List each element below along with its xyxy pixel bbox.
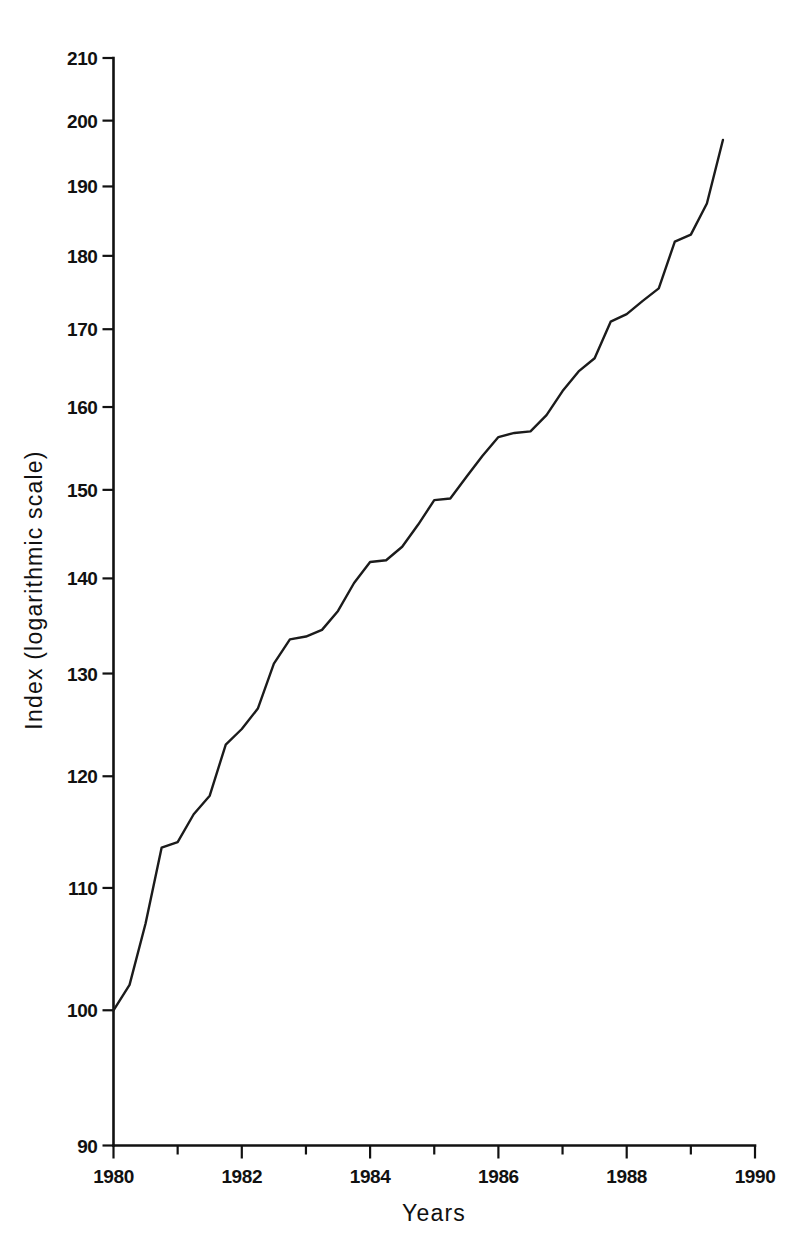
- y-tick-label: 190: [67, 176, 98, 197]
- y-axis-title: Index (logarithmic scale): [21, 450, 47, 729]
- chart-figure: 90100110120130140150160170180190200210 1…: [0, 0, 804, 1255]
- y-tick-label: 130: [67, 664, 98, 685]
- y-tick-label: 180: [67, 246, 98, 267]
- y-tick-label: 120: [67, 766, 98, 787]
- y-tick-label: 150: [67, 480, 98, 501]
- y-tick-label: 200: [67, 111, 98, 132]
- y-tick-label: 90: [77, 1136, 97, 1157]
- y-tick-label: 170: [67, 319, 98, 340]
- y-tick-label: 140: [67, 568, 98, 589]
- line-chart: 90100110120130140150160170180190200210 1…: [0, 0, 804, 1255]
- y-tick-label: 160: [67, 397, 98, 418]
- x-tick-label: 1980: [93, 1166, 134, 1187]
- y-tick-label: 110: [68, 878, 97, 899]
- x-tick-label: 1984: [350, 1166, 392, 1187]
- x-tick-label: 1988: [606, 1166, 647, 1187]
- x-axis-title: Years: [402, 1200, 466, 1226]
- chart-background: [0, 0, 804, 1255]
- y-tick-label: 210: [67, 48, 98, 69]
- x-tick-label: 1986: [478, 1166, 519, 1187]
- x-tick-label: 1982: [221, 1166, 262, 1187]
- y-tick-label: 100: [67, 1000, 98, 1021]
- x-tick-label: 1990: [735, 1166, 776, 1187]
